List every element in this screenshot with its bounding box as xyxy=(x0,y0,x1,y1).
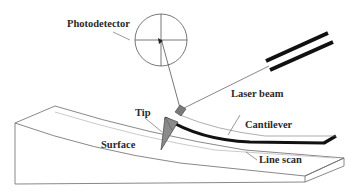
label-cantilever: Cantilever xyxy=(245,119,293,130)
afm-diagram: Photodetector Laser beam Tip Cantilever … xyxy=(0,0,364,192)
mirror-icon xyxy=(175,105,186,116)
label-tip: Tip xyxy=(135,107,151,118)
label-laser-beam: Laser beam xyxy=(231,88,284,99)
label-surface: Surface xyxy=(101,139,136,150)
label-photodetector: Photodetector xyxy=(67,18,130,29)
tip-icon xyxy=(161,117,178,150)
label-line-scan: Line scan xyxy=(259,154,302,165)
sample-surface xyxy=(15,106,344,184)
line-scan-path xyxy=(55,112,335,158)
laser-source xyxy=(266,33,333,70)
reflected-beam xyxy=(162,42,180,108)
